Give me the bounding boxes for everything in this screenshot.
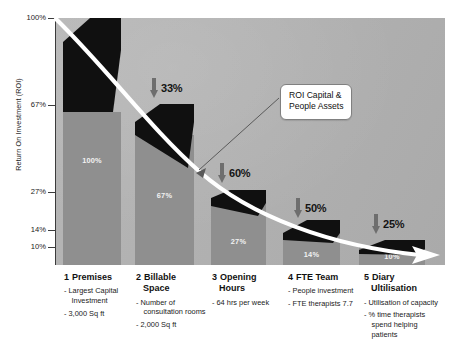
category-2-bullet-1-line2: consultation rooms xyxy=(140,307,209,317)
category-2-title2: Space xyxy=(136,283,208,294)
category-5-bullet-2-line2: spend helping xyxy=(368,320,453,330)
category-2-heading: 2Billable Space xyxy=(136,272,208,295)
category-5-title2: Ultilisation xyxy=(364,283,452,294)
category-5-bullet-1-line1: - Utilisation of capacity xyxy=(364,298,438,307)
category-2-bullet-2: - 2,000 Sq ft xyxy=(136,320,208,330)
category-5-diary-ultilisation: 5Diary Ultilisation - Utilisation of cap… xyxy=(364,272,452,340)
bar-body-fte-team xyxy=(283,233,340,265)
category-5-bullet-1: - Utilisation of capacity xyxy=(364,298,452,308)
bar-body-premises xyxy=(63,112,121,265)
roi-waterfall-chart: Return On Investment (ROI) 100% 67% 27% … xyxy=(0,0,457,364)
category-4-bullet-2: - FTE therapists 7.7 xyxy=(288,299,364,309)
bar-body-opening-hours xyxy=(211,203,266,265)
category-3-number: 3 xyxy=(212,272,217,282)
category-2-billable-space: 2Billable Space - Number of consultation… xyxy=(136,272,208,330)
bar-value-opening-hours: 27% xyxy=(211,237,266,246)
category-5-heading: 5Diary Ultilisation xyxy=(364,272,452,295)
category-4-bullet-1: - People investment xyxy=(288,286,364,296)
bar-value-diary-ultilisation: 10% xyxy=(359,252,425,261)
category-1-number: 1 xyxy=(64,272,69,282)
bar-body-billable-space xyxy=(135,135,194,265)
category-4-heading: 4FTE Team xyxy=(288,272,364,283)
category-3-title2: Hours xyxy=(212,283,284,294)
bar-value-billable-space: 67% xyxy=(135,191,194,200)
category-5-number: 5 xyxy=(364,272,369,282)
category-1-bullet-1: - Largest Capital Investment xyxy=(64,286,134,306)
bar-billable-space[interactable]: 67% xyxy=(135,135,194,265)
callout-roi-capital-people-assets[interactable]: ROI Capital & People Assets xyxy=(280,84,352,120)
callout-line-1: ROI Capital & xyxy=(289,90,343,101)
category-4-title: FTE Team xyxy=(296,272,338,282)
category-2-bullet-1-line1: - Number of xyxy=(136,298,175,307)
category-3-bullet-1-line1: - 64 hrs per week xyxy=(212,298,269,307)
category-1-bullet-1-line2: Investment xyxy=(68,296,135,306)
category-5-bullet-2-line1: - % time therapists xyxy=(364,310,425,319)
category-1-bullet-2-line1: - 3,000 Sq ft xyxy=(64,309,104,318)
category-2-title: Billable xyxy=(144,272,176,282)
category-5-title: Diary xyxy=(372,272,395,282)
category-1-title: Premises xyxy=(72,272,112,282)
callout-line-2: People Assets xyxy=(289,101,343,112)
category-1-bullet-2: - 3,000 Sq ft xyxy=(64,309,134,319)
bar-fte-team[interactable]: 14% xyxy=(283,233,340,265)
category-2-number: 2 xyxy=(136,272,141,282)
bar-value-fte-team: 14% xyxy=(283,250,340,259)
bar-value-premises: 100% xyxy=(63,156,121,165)
category-4-bullet-2-line1: - FTE therapists 7.7 xyxy=(288,299,353,308)
category-2-bullet-2-line1: - 2,000 Sq ft xyxy=(136,320,176,329)
category-3-bullet-1: - 64 hrs per week xyxy=(212,298,284,308)
category-5-bullet-3-line1: patients xyxy=(368,330,453,340)
category-1-bullet-1-line1: - Largest Capital xyxy=(64,286,118,295)
category-3-opening-hours: 3Opening Hours - 64 hrs per week xyxy=(212,272,284,307)
bar-premises[interactable]: 100% xyxy=(63,112,121,265)
category-5-bullet-2: - % time therapists spend helping patien… xyxy=(364,310,452,340)
category-4-number: 4 xyxy=(288,272,293,282)
category-1-heading: 1Premises xyxy=(64,272,134,283)
category-3-heading: 3Opening Hours xyxy=(212,272,284,295)
category-2-bullet-1: - Number of consultation rooms xyxy=(136,298,208,318)
bar-opening-hours[interactable]: 27% xyxy=(211,203,266,265)
category-3-title: Opening xyxy=(220,272,257,282)
category-4-fte-team: 4FTE Team - People investment - FTE ther… xyxy=(288,272,364,309)
category-4-bullet-1-line1: - People investment xyxy=(288,286,353,295)
category-1-premises: 1Premises - Largest Capital Investment -… xyxy=(64,272,134,319)
category-labels: 1Premises - Largest Capital Investment -… xyxy=(0,272,457,364)
bar-diary-ultilisation[interactable]: 10% xyxy=(359,247,425,265)
